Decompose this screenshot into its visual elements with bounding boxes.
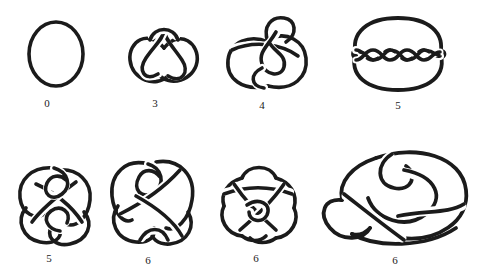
knot-diagram-trefoil: [126, 22, 202, 92]
cinquefoil-svg: [342, 12, 454, 96]
crossing-label-six-three: 6: [375, 255, 415, 266]
crossing-label-cinquefoil: 5: [378, 100, 418, 111]
crossing-label-unknot: 0: [27, 98, 67, 109]
three-twist-svg: [14, 158, 98, 248]
knot-diagram-six-two: [212, 156, 304, 248]
crossing-label-trefoil: 3: [135, 98, 175, 109]
crossing-label-three-twist: 5: [29, 253, 69, 264]
crossing-label-six-two: 6: [236, 253, 276, 264]
six-one-svg: [104, 150, 200, 248]
six-three-svg: [316, 142, 474, 254]
crossing-label-figure-eight: 4: [242, 100, 282, 111]
knot-diagram-figure-eight: [224, 12, 312, 98]
crossing-label-six-one: 6: [128, 255, 168, 266]
knot-diagram-three-twist: [14, 158, 98, 248]
knot-diagram-unknot: [18, 14, 94, 94]
unknot-svg: [18, 14, 94, 94]
knot-table-plate: 0 3: [0, 0, 480, 278]
six2-top-cap: [242, 168, 276, 179]
six2-lower-left: [222, 206, 242, 236]
trefoil-svg: [126, 22, 202, 92]
knot-diagram-six-three: [316, 142, 474, 254]
six2-lower-right: [276, 208, 296, 238]
six-two-svg: [212, 156, 304, 248]
knot-diagram-six-one: [104, 150, 200, 248]
knot-diagram-cinquefoil: [342, 12, 454, 96]
figure-eight-svg: [224, 12, 312, 98]
unknot-loop: [29, 22, 83, 86]
